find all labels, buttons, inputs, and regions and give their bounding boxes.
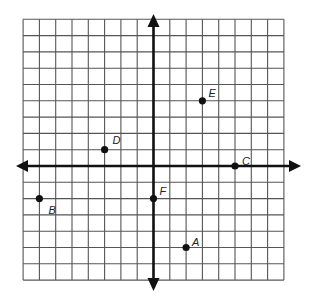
point-label-F: F xyxy=(160,185,168,197)
x-axis-left-arrow-icon xyxy=(16,160,28,172)
point-A xyxy=(183,244,190,251)
point-label-B: B xyxy=(48,204,55,216)
point-label-C: C xyxy=(242,155,250,167)
coordinate-plane: ABCDEF xyxy=(0,0,313,304)
point-label-D: D xyxy=(113,134,121,146)
point-E xyxy=(199,97,206,104)
point-label-A: A xyxy=(191,236,199,248)
point-F xyxy=(150,195,157,202)
axes xyxy=(16,14,301,291)
point-label-E: E xyxy=(208,87,216,99)
y-axis-down-arrow-icon xyxy=(148,278,160,291)
points: ABCDEF xyxy=(36,87,250,251)
y-axis-up-arrow-icon xyxy=(148,14,160,27)
point-C xyxy=(231,162,238,169)
x-axis-right-arrow-icon xyxy=(289,160,301,172)
point-D xyxy=(101,146,108,153)
point-B xyxy=(36,195,43,202)
